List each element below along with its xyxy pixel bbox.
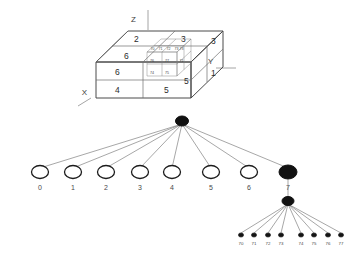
tree-level2-leaves: 70 71 72 73 74 75 (238, 233, 344, 246)
tree-edge-root-1 (73, 124, 182, 168)
tree-level1-nodes: 0 1 2 3 4 5 6 (32, 165, 298, 191)
tree-node-3-label: 3 (138, 184, 142, 191)
tree-node-1-shape[interactable] (65, 166, 82, 179)
tree-node-6[interactable]: 6 (241, 166, 258, 192)
subcube-label-77: 77 (165, 59, 169, 63)
tree-subtree-parent-node[interactable] (282, 197, 294, 206)
subcube-label-right-73: 73 (180, 47, 184, 51)
tree-node-1[interactable]: 1 (65, 166, 82, 192)
tree-node-1-label: 1 (71, 184, 75, 191)
tree-node-7-shape[interactable] (279, 165, 297, 179)
tree-edge-root-7 (182, 124, 288, 168)
tree-leaf-75-shape[interactable] (311, 233, 316, 237)
tree-subtree-parent-shape[interactable] (282, 197, 294, 206)
tree-edge-root-5 (182, 124, 211, 168)
tree-leaf-72-shape[interactable] (265, 233, 270, 237)
tree-leaf-70[interactable]: 70 (238, 233, 244, 246)
x-axis-label: X (82, 88, 88, 97)
tree-leaf-72-label: 72 (266, 241, 271, 246)
tree-leaf-73[interactable]: 73 (278, 233, 284, 246)
subcube-label-74: 74 (150, 71, 154, 75)
tree-edge-7-73 (281, 204, 288, 233)
tree-leaf-75-label: 75 (312, 241, 317, 246)
tree-edges-level1 (40, 124, 288, 168)
tree-edge-root-6 (182, 124, 249, 168)
cube-right-label-3: 3 (211, 36, 216, 46)
tree-leaf-71-shape[interactable] (251, 233, 256, 237)
tree-edge-7-76 (288, 204, 328, 233)
tree-leaf-70-shape[interactable] (238, 233, 243, 237)
tree-node-6-shape[interactable] (241, 166, 258, 179)
tree-leaf-76-label: 76 (326, 241, 331, 246)
cube-top-label-3: 3 (181, 34, 186, 44)
tree-leaf-74-shape[interactable] (298, 233, 303, 237)
octree-diagram-canvas: X Y Z (0, 0, 363, 254)
subcube-group: 70 71 72 73 74 75 76 77 71 73 (147, 39, 191, 76)
octree-figure: X Y Z (0, 0, 363, 254)
tree-leaf-77[interactable]: 77 (338, 233, 344, 246)
tree-edge-7-75 (288, 204, 314, 233)
subcube-label-70: 70 (151, 47, 155, 51)
tree-edge-7-77 (288, 204, 341, 233)
cube-front-label-6: 6 (115, 67, 120, 77)
cube-front-label-5: 5 (164, 85, 169, 95)
tree-root-node[interactable] (176, 116, 189, 126)
tree-leaf-74-label: 74 (299, 241, 304, 246)
tree-node-5-shape[interactable] (203, 166, 220, 179)
tree-leaf-75[interactable]: 75 (311, 233, 317, 246)
subcube-label-75: 75 (165, 71, 169, 75)
x-axis-line (78, 98, 91, 106)
tree-node-4[interactable]: 4 (164, 166, 181, 192)
tree-leaf-73-label: 73 (279, 241, 284, 246)
tree-node-4-shape[interactable] (164, 166, 181, 179)
tree-node-0[interactable]: 0 (32, 166, 49, 192)
tree-edge-7-70 (241, 204, 288, 233)
tree-node-3[interactable]: 3 (132, 166, 149, 192)
tree-node-2[interactable]: 2 (98, 166, 115, 192)
tree-node-2-shape[interactable] (98, 166, 115, 179)
z-axis-label: Z (131, 15, 136, 24)
tree-node-6-label: 6 (247, 184, 251, 191)
tree-node-2-label: 2 (104, 184, 108, 191)
cube-front-label-5-inner: 5 (184, 76, 189, 86)
cube-front-label-6-upper: 6 (124, 51, 129, 61)
subcube-label-72: 72 (167, 47, 171, 51)
root-node-shape[interactable] (176, 116, 189, 126)
axes-group: X Y Z (78, 10, 236, 106)
subcube-label-76: 76 (150, 59, 154, 63)
tree-edge-root-4 (172, 124, 182, 168)
tree-leaf-71[interactable]: 71 (251, 233, 257, 246)
tree-leaf-71-label: 71 (252, 241, 257, 246)
tree-leaf-77-label: 77 (339, 241, 344, 246)
tree-leaf-72[interactable]: 72 (265, 233, 271, 246)
cube-face-labels: 2 3 6 6 4 5 5 3 1 (115, 34, 216, 95)
subcube-label-73: 73 (175, 47, 179, 51)
tree-leaf-74[interactable]: 74 (298, 233, 304, 246)
tree-leaf-73-shape[interactable] (278, 233, 283, 237)
tree-node-0-shape[interactable] (32, 166, 49, 179)
tree-node-0-label: 0 (38, 184, 42, 191)
tree-node-4-label: 4 (170, 184, 174, 191)
tree-node-5-label: 5 (209, 184, 213, 191)
subcube-label-71: 71 (159, 47, 163, 51)
tree-leaf-77-shape[interactable] (338, 233, 343, 237)
cube-top-label-2: 2 (134, 34, 139, 44)
tree-node-3-shape[interactable] (132, 166, 149, 179)
tree-edge-root-2 (106, 124, 182, 168)
tree-leaf-70-label: 70 (239, 241, 244, 246)
tree-node-5[interactable]: 5 (203, 166, 220, 192)
subcube-label-right-71: 71 (180, 59, 184, 63)
tree-leaf-76[interactable]: 76 (325, 233, 331, 246)
cube-right-label-1: 1 (211, 68, 216, 78)
tree-leaf-76-shape[interactable] (325, 233, 330, 237)
tree-edges-level2 (241, 204, 341, 233)
cube-front-label-4: 4 (115, 85, 120, 95)
